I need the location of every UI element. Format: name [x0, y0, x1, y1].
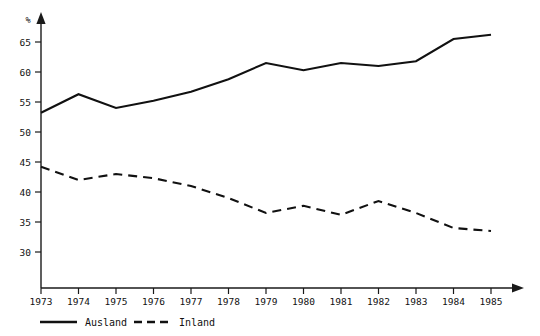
- y-axis-unit-label: %: [25, 15, 30, 25]
- x-tick-label: 1985: [480, 296, 503, 307]
- series-line-ausland: [41, 35, 491, 113]
- y-tick-label: 60: [20, 67, 32, 78]
- y-tick-label: 65: [20, 37, 31, 48]
- y-tick-30: 30: [20, 247, 41, 258]
- x-tick-1977: 1977: [180, 288, 203, 307]
- x-tick-1982: 1982: [367, 288, 390, 307]
- x-tick-group: 1973 1974 1975 1976 1977 1978: [30, 288, 503, 307]
- x-tick-1980: 1980: [292, 288, 315, 307]
- y-tick-label: 40: [20, 187, 32, 198]
- x-tick-label: 1974: [67, 296, 90, 307]
- y-tick-label: 50: [20, 127, 32, 138]
- y-tick-50: 50: [20, 127, 41, 138]
- y-tick-label: 35: [20, 217, 31, 228]
- legend-label-ausland: Ausland: [85, 317, 127, 328]
- x-tick-label: 1978: [217, 296, 240, 307]
- x-tick-1981: 1981: [330, 288, 353, 307]
- x-tick-label: 1979: [255, 296, 278, 307]
- x-tick-label: 1980: [292, 296, 315, 307]
- x-tick-label: 1976: [142, 296, 165, 307]
- x-tick-1979: 1979: [255, 288, 278, 307]
- y-tick-65: 65: [20, 37, 41, 48]
- y-tick-60: 60: [20, 67, 41, 78]
- y-tick-label: 30: [20, 247, 32, 258]
- y-tick-label: 55: [20, 97, 31, 108]
- x-tick-1974: 1974: [67, 288, 90, 307]
- x-tick-1976: 1976: [142, 288, 165, 307]
- x-tick-label: 1983: [405, 296, 428, 307]
- x-axis-arrowhead: [512, 283, 524, 292]
- chart-legend: Ausland Inland: [40, 317, 215, 328]
- y-tick-45: 45: [20, 157, 41, 168]
- x-axis: [41, 283, 524, 292]
- x-tick-1985: 1985: [480, 288, 503, 307]
- y-tick-40: 40: [20, 187, 41, 198]
- series-line-inland: [41, 167, 491, 231]
- x-tick-1984: 1984: [442, 288, 465, 307]
- y-tick-35: 35: [20, 217, 41, 228]
- y-tick-group: 30 35 40 45 50 55: [20, 37, 41, 258]
- x-tick-label: 1984: [442, 296, 465, 307]
- x-tick-1978: 1978: [217, 288, 240, 307]
- x-tick-1983: 1983: [405, 288, 428, 307]
- chart-canvas: % 30 35 40 45: [0, 0, 540, 336]
- x-tick-label: 1981: [330, 296, 353, 307]
- x-tick-label: 1977: [180, 296, 203, 307]
- legend-item-ausland[interactable]: Ausland: [40, 317, 127, 328]
- x-tick-label: 1982: [367, 296, 390, 307]
- y-axis-arrowhead: [36, 12, 45, 24]
- y-tick-55: 55: [20, 97, 41, 108]
- x-tick-label: 1975: [105, 296, 128, 307]
- x-tick-1975: 1975: [105, 288, 128, 307]
- legend-label-inland: Inland: [179, 317, 215, 328]
- line-chart: % 30 35 40 45: [0, 0, 540, 336]
- series-group: [41, 35, 491, 231]
- y-tick-label: 45: [20, 157, 31, 168]
- x-tick-1973: 1973: [30, 288, 53, 307]
- x-tick-label: 1973: [30, 296, 53, 307]
- legend-item-inland[interactable]: Inland: [134, 317, 215, 328]
